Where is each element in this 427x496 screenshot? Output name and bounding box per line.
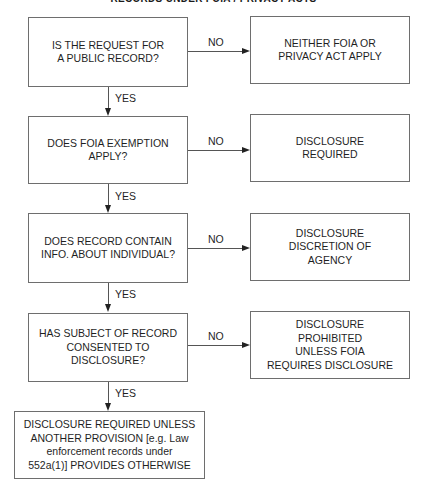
outcome-text: DISCLOSURE DISCRETION OF AGENCY	[289, 227, 371, 268]
outcome-neither-applies: NEITHER FOIA OR PRIVACY ACT APPLY	[250, 16, 410, 84]
yes-label: YES	[115, 387, 136, 399]
arrow-down-icon	[105, 403, 111, 411]
arrow-down-icon	[105, 304, 111, 312]
no-connector	[188, 51, 243, 52]
arrow-right-icon	[242, 245, 250, 251]
yes-connector	[108, 184, 109, 206]
outcome-agency-discretion: DISCLOSURE DISCRETION OF AGENCY	[250, 213, 410, 281]
arrow-down-icon	[105, 108, 111, 116]
outcome-disclosure-prohibited: DISCLOSURE PROHIBITED UNLESS FOIA REQUIR…	[250, 311, 410, 379]
outcome-text: DISCLOSURE REQUIRED	[296, 135, 364, 162]
outcome-text: NEITHER FOIA OR PRIVACY ACT APPLY	[278, 37, 382, 64]
final-outcome-disclosure-required-unless: DISCLOSURE REQUIRED UNLESS ANOTHER PROVI…	[14, 411, 205, 479]
arrow-right-icon	[242, 342, 250, 348]
yes-label: YES	[115, 190, 136, 202]
decision-text: DOES RECORD CONTAIN INFO. ABOUT INDIVIDU…	[41, 235, 175, 262]
arrow-right-icon	[242, 147, 250, 153]
decision-text: HAS SUBJECT OF RECORD CONSENTED TO DISCL…	[39, 327, 177, 368]
yes-label: YES	[115, 288, 136, 300]
no-connector	[188, 248, 243, 249]
outcome-disclosure-required: DISCLOSURE REQUIRED	[250, 114, 410, 182]
decision-info-about-individual: DOES RECORD CONTAIN INFO. ABOUT INDIVIDU…	[28, 213, 188, 283]
decision-subject-consent: HAS SUBJECT OF RECORD CONSENTED TO DISCL…	[28, 313, 188, 382]
diagram-title: RECORDS UNDER FOIA / PRIVACY ACTS	[0, 0, 427, 4]
no-label: NO	[208, 36, 224, 48]
yes-connector	[108, 87, 109, 109]
yes-connector	[108, 382, 109, 404]
decision-public-record: IS THE REQUEST FOR A PUBLIC RECORD?	[28, 17, 188, 87]
arrow-down-icon	[105, 205, 111, 213]
outcome-text: DISCLOSURE PROHIBITED UNLESS FOIA REQUIR…	[267, 318, 393, 372]
yes-label: YES	[115, 92, 136, 104]
no-label: NO	[208, 233, 224, 245]
no-connector	[188, 345, 243, 346]
final-outcome-text: DISCLOSURE REQUIRED UNLESS ANOTHER PROVI…	[24, 418, 196, 472]
arrow-right-icon	[242, 48, 250, 54]
no-label: NO	[208, 135, 224, 147]
decision-foia-exemption: DOES FOIA EXEMPTION APPLY?	[28, 116, 188, 184]
decision-text: IS THE REQUEST FOR A PUBLIC RECORD?	[52, 39, 164, 66]
decision-text: DOES FOIA EXEMPTION APPLY?	[47, 137, 168, 164]
no-label: NO	[208, 330, 224, 342]
no-connector	[188, 150, 243, 151]
yes-connector	[108, 283, 109, 305]
